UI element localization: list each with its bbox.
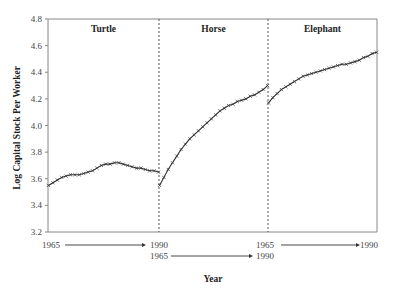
series-turtle: [47, 161, 160, 187]
data-point-marker: [297, 77, 300, 80]
x-range-end-label: 1990: [150, 240, 169, 250]
panel-titles: TurtleHorseElephant: [91, 24, 342, 34]
y-axis-title: Log Capital Stock Per Worker: [12, 65, 22, 189]
panel-title-horse: Horse: [201, 24, 225, 34]
y-tick-label: 4.4: [31, 67, 43, 77]
x-range-end-label: 1990: [360, 240, 379, 250]
series-elephant: [267, 51, 378, 105]
data-point-marker: [201, 125, 204, 128]
x-range-3: 19651990: [256, 240, 379, 250]
data-point-marker: [180, 148, 183, 151]
chart: 3.23.43.63.84.04.24.44.64.8 TurtleHorseE…: [0, 0, 396, 293]
x-range-1: 19651990: [42, 240, 169, 250]
y-tick-label: 4.6: [31, 41, 43, 51]
x-range-end-label: 1990: [256, 251, 275, 261]
data-point-marker: [197, 129, 200, 132]
data-point-marker: [289, 83, 292, 86]
data-point-marker: [257, 91, 260, 94]
data-point-marker: [188, 137, 191, 140]
data-point-marker: [192, 133, 195, 136]
y-tick-label: 3.8: [31, 147, 43, 157]
data-point-marker: [56, 178, 59, 181]
y-tick-label: 3.6: [31, 174, 43, 184]
chart-canvas: 3.23.43.63.84.04.24.44.64.8 TurtleHorseE…: [0, 0, 396, 293]
y-tick-label: 4.0: [31, 121, 43, 131]
x-range-2: 19651990: [150, 251, 275, 261]
data-point-marker: [51, 181, 54, 184]
data-point-marker: [184, 143, 187, 146]
arrowhead-icon: [249, 254, 253, 258]
x-axis-year-ranges: 196519901965199019651990: [42, 240, 379, 261]
arrowhead-icon: [142, 243, 146, 247]
data-point-marker: [95, 167, 98, 170]
data-series: [47, 51, 378, 187]
panel-title-turtle: Turtle: [91, 24, 116, 34]
data-point-marker: [223, 107, 226, 110]
data-point-marker: [214, 113, 217, 116]
y-axis: 3.23.43.63.84.04.24.44.64.8: [31, 14, 48, 237]
data-point-marker: [271, 96, 274, 99]
data-point-marker: [175, 155, 178, 158]
data-point-marker: [171, 161, 174, 164]
data-point-marker: [284, 85, 287, 88]
data-point-marker: [280, 88, 283, 91]
data-point-marker: [262, 88, 265, 91]
x-range-start-label: 1965: [42, 240, 61, 250]
panel-title-elephant: Elephant: [304, 24, 342, 34]
y-tick-label: 4.2: [31, 94, 42, 104]
x-axis-title: Year: [204, 274, 224, 284]
x-range-start-label: 1965: [150, 251, 169, 261]
series-horse: [158, 84, 269, 187]
x-range-start-label: 1965: [256, 240, 275, 250]
data-point-marker: [218, 109, 221, 112]
y-tick-label: 3.2: [31, 227, 42, 237]
panel-dividers: [159, 19, 268, 232]
data-point-marker: [205, 121, 208, 124]
y-tick-label: 3.4: [31, 200, 43, 210]
data-point-marker: [276, 92, 279, 95]
data-point-marker: [293, 80, 296, 83]
y-tick-label: 4.8: [31, 14, 43, 24]
data-point-marker: [210, 117, 213, 120]
plot-frame: [48, 19, 377, 232]
